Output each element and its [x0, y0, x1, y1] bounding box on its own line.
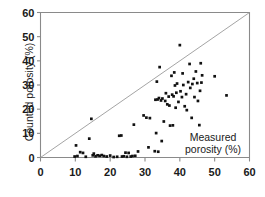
data-point [109, 154, 112, 157]
data-point [198, 124, 201, 127]
data-point [185, 109, 188, 112]
data-point [142, 114, 145, 117]
data-point [167, 95, 170, 98]
data-point [181, 72, 184, 75]
data-point [193, 96, 196, 99]
data-point [127, 152, 130, 155]
data-point [196, 82, 199, 85]
data-point [116, 155, 119, 158]
data-point [112, 156, 115, 159]
data-point [92, 152, 95, 155]
data-point [134, 154, 137, 157]
y-tick-label: 60 [22, 7, 34, 19]
x-tick-label: 50 [209, 166, 221, 178]
data-point [199, 89, 202, 92]
data-point [178, 44, 181, 47]
data-point [79, 151, 82, 154]
data-point [195, 70, 198, 73]
data-point [90, 117, 93, 120]
x-axis-title-line1: Measured [190, 131, 237, 143]
data-point [201, 74, 204, 77]
data-point [173, 71, 176, 74]
x-tick-label: 60 [243, 166, 255, 178]
x-tick-label: 20 [104, 166, 116, 178]
data-point [75, 144, 78, 147]
data-point [190, 117, 193, 120]
data-point [84, 155, 87, 158]
data-point [191, 83, 194, 86]
x-tick-label: 40 [174, 166, 186, 178]
data-point [73, 155, 76, 158]
data-point [164, 100, 167, 103]
data-point [153, 150, 156, 153]
data-point [213, 75, 216, 78]
x-axis-title-line2: porosity (%) [185, 143, 241, 155]
data-point [172, 124, 175, 127]
data-point [182, 84, 185, 87]
data-point [189, 87, 192, 90]
data-point [131, 155, 134, 158]
y-tick-label: 0 [28, 152, 34, 164]
data-point [82, 152, 85, 155]
data-point [161, 97, 164, 100]
data-point [158, 97, 161, 100]
chart-canvas: 0102030405060 0102030405060 Counted poro… [0, 0, 265, 197]
y-tick-label: 50 [22, 31, 34, 43]
data-point [176, 82, 179, 85]
data-point [170, 74, 173, 77]
data-point [76, 155, 79, 158]
data-point [179, 90, 182, 93]
data-point [172, 95, 175, 98]
data-point [197, 100, 200, 103]
data-point [155, 80, 158, 83]
data-point [185, 93, 188, 96]
data-point [188, 63, 191, 66]
data-point [165, 92, 168, 95]
data-point [177, 101, 180, 104]
data-point [199, 62, 202, 65]
data-point [169, 124, 172, 127]
data-point [88, 137, 91, 140]
data-point [124, 151, 127, 154]
data-point [175, 91, 178, 94]
data-point [145, 116, 148, 119]
data-point [160, 140, 163, 143]
data-point [181, 96, 184, 99]
data-point [155, 132, 158, 135]
scatter-chart-figure: 0102030405060 0102030405060 Counted poro… [0, 0, 265, 197]
data-point [126, 155, 129, 158]
data-point [187, 81, 190, 84]
x-tick-label: 0 [37, 166, 43, 178]
data-point [120, 134, 123, 137]
data-point [133, 123, 136, 126]
y-axis-title: Counted porosity (%) [23, 43, 35, 142]
data-point [168, 104, 171, 107]
data-point [122, 155, 125, 158]
x-tick-label: 30 [139, 166, 151, 178]
data-point [157, 150, 160, 153]
data-point [147, 146, 150, 149]
data-point [225, 94, 228, 97]
data-point [137, 150, 140, 153]
data-point [162, 120, 165, 123]
data-point [192, 77, 195, 80]
data-point [174, 106, 177, 109]
data-point [200, 81, 203, 84]
data-point [105, 155, 108, 158]
data-point [158, 66, 161, 69]
data-point [103, 155, 106, 158]
x-tick-label: 10 [69, 166, 81, 178]
data-point [183, 105, 186, 108]
data-point [149, 117, 152, 120]
